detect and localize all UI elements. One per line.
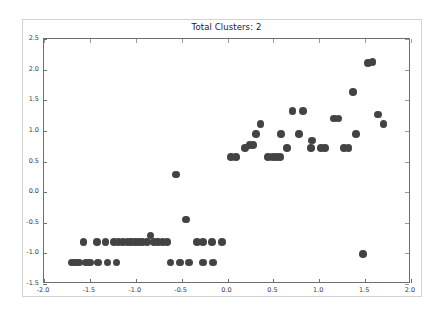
data-point xyxy=(276,153,284,161)
data-point xyxy=(80,238,88,246)
x-axis-tick xyxy=(44,279,45,283)
x-axis-tick-top xyxy=(365,39,366,43)
x-axis-tick xyxy=(319,279,320,283)
x-axis-tick-top xyxy=(90,39,91,43)
y-axis-tick xyxy=(43,131,47,132)
y-axis-tick-right xyxy=(405,192,409,193)
data-point xyxy=(295,130,303,138)
y-axis-tick xyxy=(43,192,47,193)
y-axis-tick xyxy=(43,253,47,254)
x-axis-tick-label: -1.5 xyxy=(83,286,96,294)
x-axis-tick xyxy=(90,279,91,283)
data-point xyxy=(104,259,112,267)
data-point xyxy=(102,238,110,246)
data-point xyxy=(218,238,226,246)
x-axis-tick-label: -0.5 xyxy=(174,286,187,294)
scatter-plot-area xyxy=(44,39,409,282)
data-point xyxy=(199,238,207,246)
y-axis-tick-label: -1.0 xyxy=(18,248,39,256)
data-point xyxy=(176,259,184,267)
y-axis-tick xyxy=(43,223,47,224)
data-point xyxy=(199,259,207,267)
y-axis-tick-right xyxy=(405,131,409,132)
x-axis-tick-top xyxy=(136,39,137,43)
y-axis-tick-right xyxy=(405,223,409,224)
data-point xyxy=(249,141,257,149)
y-axis-tick-label: 1.0 xyxy=(18,126,39,134)
y-axis-tick-right xyxy=(405,162,409,163)
x-axis-tick-label: -2.0 xyxy=(37,286,50,294)
figure-canvas: Total Clusters: 2 -2.0-1.5-1.0-0.50.00.5… xyxy=(0,0,446,318)
y-axis-tick-label: 0.5 xyxy=(18,157,39,165)
data-point xyxy=(209,259,217,267)
data-point xyxy=(283,144,291,152)
data-point xyxy=(352,130,360,138)
x-axis-tick-label: -1.0 xyxy=(128,286,141,294)
data-point xyxy=(113,259,121,267)
x-axis-tick-top xyxy=(182,39,183,43)
x-axis-tick-label: 1.5 xyxy=(359,286,369,294)
y-axis-tick-label: -0.5 xyxy=(18,218,39,226)
data-point xyxy=(232,153,240,161)
data-point xyxy=(277,130,285,138)
y-axis-tick-right xyxy=(405,70,409,71)
data-point xyxy=(172,171,180,179)
x-axis-tick-top xyxy=(273,39,274,43)
page-title: Total Clusters: 2 xyxy=(43,22,410,32)
y-axis-tick xyxy=(43,284,47,285)
data-point xyxy=(208,238,216,246)
y-axis-tick-right xyxy=(405,253,409,254)
y-axis-tick-label: 2.5 xyxy=(18,34,39,42)
data-point xyxy=(307,144,315,152)
y-axis-tick-label: -1.5 xyxy=(18,279,39,287)
data-point xyxy=(369,58,377,66)
y-axis-tick xyxy=(43,39,47,40)
data-point xyxy=(163,238,171,246)
x-axis-tick xyxy=(411,279,412,283)
data-point xyxy=(257,120,265,128)
x-axis-tick xyxy=(182,279,183,283)
y-axis-tick-right xyxy=(405,100,409,101)
y-axis-tick-right xyxy=(405,284,409,285)
data-point xyxy=(349,88,357,96)
data-point xyxy=(335,115,343,123)
data-point xyxy=(345,144,353,152)
y-axis-tick-label: 2.0 xyxy=(18,65,39,73)
data-point xyxy=(94,259,102,267)
data-point xyxy=(374,111,382,119)
data-point xyxy=(380,120,388,128)
x-axis-tick-top xyxy=(411,39,412,43)
data-point xyxy=(289,107,297,115)
plot-axes xyxy=(43,38,410,283)
data-point xyxy=(93,238,101,246)
x-axis-tick xyxy=(273,279,274,283)
data-point xyxy=(86,259,94,267)
x-axis-tick-label: 1.0 xyxy=(313,286,323,294)
y-axis-tick xyxy=(43,100,47,101)
x-axis-tick xyxy=(228,279,229,283)
x-axis-tick-top xyxy=(319,39,320,43)
data-point xyxy=(321,144,329,152)
x-axis-tick-label: 0.0 xyxy=(221,286,231,294)
data-point xyxy=(167,259,175,267)
data-point xyxy=(185,259,193,267)
data-point xyxy=(182,216,190,224)
y-axis-tick xyxy=(43,70,47,71)
y-axis-tick-right xyxy=(405,39,409,40)
x-axis-tick xyxy=(365,279,366,283)
data-point xyxy=(299,107,307,115)
data-point xyxy=(359,250,367,258)
y-axis-tick xyxy=(43,162,47,163)
data-point xyxy=(252,130,260,138)
x-axis-tick-label: 0.5 xyxy=(267,286,277,294)
x-axis-tick-top xyxy=(228,39,229,43)
y-axis-tick-label: 0.0 xyxy=(18,187,39,195)
y-axis-tick-label: 1.5 xyxy=(18,95,39,103)
x-axis-tick xyxy=(136,279,137,283)
x-axis-tick-label: 2.0 xyxy=(405,286,415,294)
